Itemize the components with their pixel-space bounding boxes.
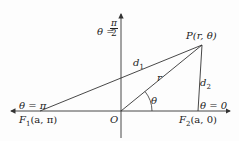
label-r: r (157, 73, 162, 83)
label-d2: d2 (200, 78, 211, 91)
label-angle-theta: θ (151, 96, 157, 106)
label-origin-o: O (110, 115, 118, 125)
label-theta-pi-half-fraction: π 2 (110, 19, 118, 38)
label-theta-pi: θ = π (19, 101, 46, 111)
label-theta-zero: θ = 0 (200, 101, 227, 111)
label-d1: d1 (133, 58, 144, 71)
label-focus-f2: F2(a, 0) (179, 115, 217, 128)
label-focus-f1: F1(a, π) (19, 115, 57, 128)
polar-diagram: θ = π 2 P(r, θ) d1 r d2 θ θ = π θ = 0 F1… (0, 0, 239, 141)
label-point-p: P(r, θ) (186, 31, 217, 41)
